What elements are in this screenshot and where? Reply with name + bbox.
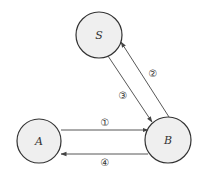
edge-b-to-a: ④ [61, 154, 148, 168]
diagram-canvas: S A B ① ② ③ ④ [0, 0, 206, 177]
edge-a-to-b: ① [61, 117, 148, 130]
node-a-label: A [34, 135, 43, 148]
edge-label-2: ② [149, 68, 158, 79]
edge-label-4: ④ [101, 157, 110, 168]
node-b-label: B [163, 134, 172, 147]
edge-s-to-b: ③ [108, 56, 152, 122]
node-s-label: S [95, 29, 103, 42]
node-s: S [76, 12, 122, 58]
edge-label-3: ③ [119, 90, 128, 101]
edge-b-to-s: ② [121, 42, 169, 117]
node-a: A [17, 119, 61, 163]
node-b: B [145, 117, 191, 163]
edge-label-1: ① [101, 117, 110, 128]
